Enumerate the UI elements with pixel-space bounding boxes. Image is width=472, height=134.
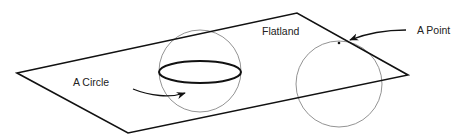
flatland-diagram: Flatland A Point A Circle [0, 0, 472, 134]
cross-section-circle [159, 61, 241, 83]
label-flatland: Flatland [262, 25, 300, 37]
sphere-intersecting [159, 30, 241, 112]
label-a-circle: A Circle [73, 76, 109, 88]
arrow-circle-icon [133, 89, 185, 96]
label-a-point: A Point [417, 24, 450, 36]
tangent-point [338, 42, 341, 45]
arrow-point-icon [350, 30, 406, 40]
flatland-plane [17, 13, 408, 133]
